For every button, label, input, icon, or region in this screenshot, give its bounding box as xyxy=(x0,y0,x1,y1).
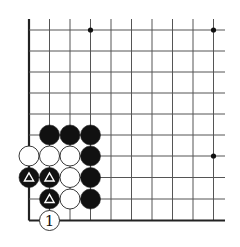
black-stone-icon xyxy=(40,189,60,209)
go-board: 1 xyxy=(0,0,240,247)
star-point-icon xyxy=(88,27,93,32)
white-stone xyxy=(40,146,60,166)
white-stone xyxy=(60,168,80,188)
star-point-icon xyxy=(211,27,216,32)
black-stone xyxy=(60,125,80,145)
white-stone xyxy=(60,189,80,209)
black-stone-icon xyxy=(60,125,80,145)
black-stone-icon xyxy=(81,168,101,188)
star-point-icon xyxy=(211,153,216,158)
black-stone-icon xyxy=(81,189,101,209)
black-stone-icon xyxy=(40,125,60,145)
black-stone xyxy=(40,125,60,145)
white-stone xyxy=(60,146,80,166)
white-stone-icon xyxy=(19,146,39,166)
black-stone-icon xyxy=(81,146,101,166)
white-stone-icon xyxy=(60,146,80,166)
white-stone-icon xyxy=(60,189,80,209)
move-number-label: 1 xyxy=(45,212,55,230)
black-stone xyxy=(81,189,101,209)
white-stone-icon xyxy=(40,146,60,166)
black-stone xyxy=(40,168,60,188)
grid-lines xyxy=(29,19,225,221)
black-stone-icon xyxy=(40,168,60,188)
black-stone xyxy=(81,168,101,188)
white-stone-icon xyxy=(60,168,80,188)
white-stone: 1 xyxy=(40,211,60,231)
black-stone xyxy=(19,168,39,188)
black-stone-icon xyxy=(81,125,101,145)
stones: 1 xyxy=(19,125,101,231)
white-stone xyxy=(19,146,39,166)
black-stone xyxy=(40,189,60,209)
black-stone xyxy=(81,146,101,166)
black-stone xyxy=(81,125,101,145)
black-stone-icon xyxy=(19,168,39,188)
